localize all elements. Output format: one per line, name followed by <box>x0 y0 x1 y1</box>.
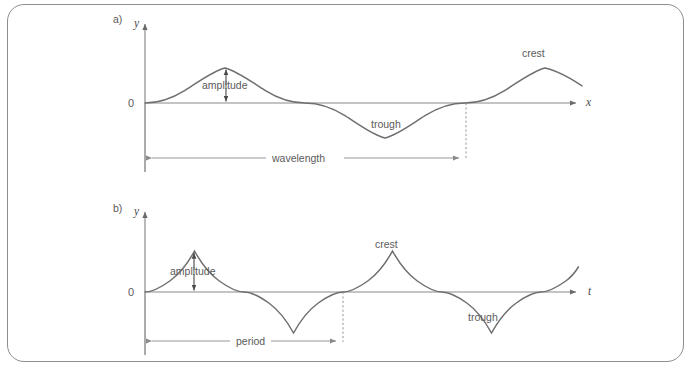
panel-b-y-axis-label: y <box>133 205 140 218</box>
figure-canvas: a) y x 0 amplitude crest trough <box>0 0 692 369</box>
panel-a-crest-label: crest <box>522 47 545 59</box>
panel-b-origin-label: 0 <box>128 286 134 298</box>
panel-b: b) y t 0 amplitude crest trough <box>113 202 592 355</box>
panel-b-trough-label: trough <box>468 311 498 323</box>
panel-a-x-axis-label: x <box>585 96 592 108</box>
panel-b-crest-label: crest <box>375 238 398 250</box>
panel-a-amplitude-label: amplitude <box>202 79 248 91</box>
panel-a-trough-label: trough <box>371 118 401 130</box>
panel-a-wavelength-label: wavelength <box>271 152 325 164</box>
panel-b-amplitude-label: amplitude <box>170 265 216 277</box>
panel-a-label: a) <box>113 13 122 25</box>
figure-root: a) y x 0 amplitude crest trough <box>0 0 692 369</box>
panel-a-y-axis-label: y <box>133 17 140 30</box>
panel-a-origin-label: 0 <box>128 97 134 109</box>
panel-a: a) y x 0 amplitude crest trough <box>113 13 592 172</box>
panel-b-label: b) <box>113 202 122 214</box>
panel-b-period-label: period <box>236 335 265 347</box>
panel-b-t-axis-label: t <box>588 285 592 297</box>
